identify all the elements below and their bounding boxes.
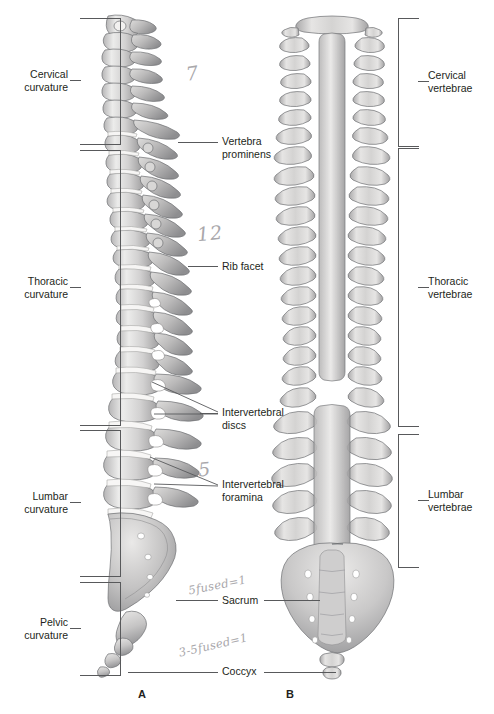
- bracket-cervical-curvature: [80, 18, 121, 145]
- figure-canvas: Cervical curvature Thoracic curvature Lu…: [0, 0, 494, 714]
- leader-intervertebral-foramina: [148, 455, 222, 491]
- bracket-lumbar-curvature: [80, 430, 121, 577]
- bracket-cervical-vertebrae: [398, 18, 419, 147]
- bracket-tick-thoracic-curvature: [70, 287, 81, 288]
- leader-sacrum-left: [176, 600, 218, 601]
- label-sacrum: Sacrum: [222, 594, 266, 607]
- leader-vertebra-prominens: [178, 142, 218, 143]
- leader-coccyx-right: [264, 672, 336, 673]
- label-cervical-vertebrae: Cervical vertebrae: [428, 69, 494, 94]
- figure-letter-b: B: [286, 688, 294, 700]
- spine-posterior-illustration: [262, 14, 402, 686]
- label-cervical-curvature: Cervical curvature: [0, 68, 68, 93]
- label-intervertebral-discs: Intervertebral discs: [222, 406, 308, 431]
- bracket-tick-lumbar-curvature: [70, 502, 81, 503]
- bracket-tick-cervical-curvature: [70, 80, 81, 81]
- label-rib-facet: Rib facet: [222, 260, 308, 273]
- label-lumbar-vertebrae: Lumbar vertebrae: [428, 488, 494, 513]
- label-coccyx: Coccyx: [222, 665, 266, 678]
- leader-rib-facet: [188, 266, 218, 267]
- bracket-pelvic-curvature: [80, 582, 121, 676]
- label-intervertebral-foramina: Intervertebral foramina: [222, 478, 316, 503]
- label-vertebra-prominens: Vertebra prominens: [222, 135, 308, 160]
- bracket-lumbar-vertebrae: [398, 434, 419, 568]
- leader-intervertebral-discs-stem: [200, 413, 218, 414]
- label-pelvic-curvature: Pelvic curvature: [0, 616, 68, 641]
- label-thoracic-vertebrae: Thoracic vertebrae: [428, 275, 494, 300]
- bracket-thoracic-vertebrae: [398, 148, 419, 427]
- leader-coccyx-left: [128, 672, 218, 673]
- label-thoracic-curvature: Thoracic curvature: [0, 275, 68, 300]
- leader-sacrum-right: [264, 600, 320, 601]
- bracket-thoracic-curvature: [80, 150, 121, 426]
- label-lumbar-curvature: Lumbar curvature: [0, 490, 68, 515]
- figure-letter-a: A: [138, 688, 146, 700]
- bracket-tick-pelvic-curvature: [70, 628, 81, 629]
